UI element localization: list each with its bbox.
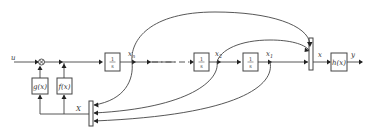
block-diagram: u g(x) f(x) X 1 s xn 1 s x2 1 [0, 0, 372, 133]
integrator-n-den: s [111, 63, 114, 69]
arrow-icon [94, 103, 99, 108]
integrator-1-num: 1 [249, 56, 252, 62]
signal-x1-label: x1 [266, 50, 273, 59]
arrow-icon [304, 60, 308, 65]
arrow-icon [99, 60, 103, 65]
block-h-label: h(x) [332, 59, 346, 67]
arrow-icon [38, 66, 43, 71]
integrator-2-num: 1 [200, 56, 203, 62]
signal-x-label: x [318, 51, 322, 59]
integrator-1-den: s [249, 63, 252, 69]
input-label-u: u [11, 54, 16, 62]
block-g-label: g(x) [33, 83, 47, 91]
feedback-label-x: X [75, 105, 82, 113]
arrow-icon [237, 60, 241, 65]
summing-junction [39, 59, 45, 65]
integrator-n-num: 1 [111, 56, 114, 62]
arrow-icon [147, 60, 151, 65]
arrow-icon [327, 60, 331, 65]
arrow-icon [359, 60, 363, 65]
arrow-icon [38, 95, 43, 100]
block-f-label: f(x) [57, 83, 70, 91]
arrow-icon [190, 60, 194, 65]
arrow-icon [62, 64, 67, 69]
arrow-icon [94, 111, 99, 116]
output-label-y: y [350, 51, 356, 59]
arrow-icon [59, 60, 63, 65]
curve-x2-to-mux [217, 40, 309, 62]
arrow-icon [62, 95, 67, 100]
arrow-icon [94, 119, 99, 124]
mux-bar-left [89, 101, 93, 126]
integrator-2-den: s [200, 63, 203, 69]
